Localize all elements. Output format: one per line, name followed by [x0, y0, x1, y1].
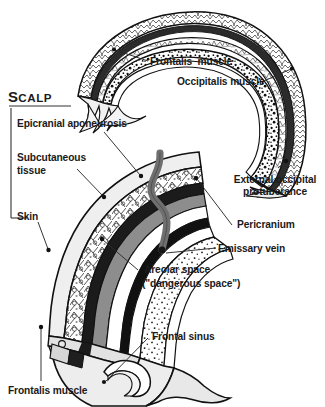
label-frontalis-muscle-bottom: Frontalis muscle [8, 385, 87, 397]
emissary-vein-terminal-dot [158, 246, 165, 253]
label-frontalis-muscle-top: Frontalis muscle [150, 56, 232, 68]
leader-skin [38, 222, 48, 249]
leader-subcutaneous-tissue [77, 169, 103, 196]
label-areolar-space-line2: ("dangerous space") [142, 278, 240, 290]
scalp-anatomy-figure: SCALP Frontalis muscle Occipitalis muscl… [0, 0, 325, 407]
scalp-heading: SCALP [8, 88, 52, 106]
label-epicranial-aponeurosis: Epicranial aponeurosis [17, 118, 127, 130]
label-external-occipital-protuberance-line1: External occipital [228, 174, 322, 186]
label-external-occipital-protuberance-line2: protuberance [228, 186, 322, 198]
label-frontal-sinus: Frontal sinus [152, 331, 215, 343]
scalp-heading-rest: CALP [18, 91, 52, 104]
leader-epicranial-aponeurosis [104, 132, 140, 175]
frontal-sinus-point [102, 380, 106, 384]
label-skin: Skin [17, 211, 38, 223]
label-occipitalis-muscle: Occipitalis muscle [177, 76, 265, 88]
label-subcutaneous-tissue-line1: Subcutaneous [17, 152, 86, 164]
label-subcutaneous-tissue-line2: tissue [17, 165, 46, 177]
label-areolar-space-line1: Areolar space [144, 264, 210, 276]
scalp-heading-lead: S [8, 88, 18, 105]
label-emissary-vein: Emissary vein [218, 243, 285, 255]
label-pericranium: Pericranium [237, 219, 295, 231]
